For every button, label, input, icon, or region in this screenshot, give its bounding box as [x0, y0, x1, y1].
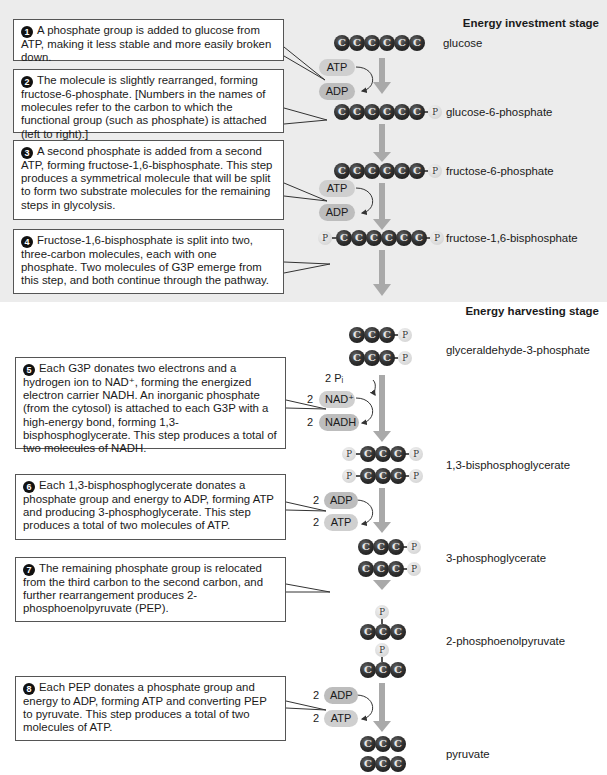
carbon-atom: C [409, 104, 425, 120]
carbon-atom: C [375, 468, 391, 484]
carbon-atom: C [349, 35, 365, 51]
carbon-atom: C [375, 446, 391, 462]
carbon-atom: C [366, 230, 382, 246]
carbon-atom: C [379, 35, 395, 51]
pep-phosphate-1: P [375, 605, 389, 624]
nadh-output-pill: NADH [319, 414, 359, 431]
carbon-atom: C [388, 539, 404, 555]
bisphosphoglycerate-label: 1,3-bisphosphoglycerate [446, 459, 570, 471]
atp-coefficient: 2 [313, 516, 319, 528]
phosphate-group: P [375, 605, 389, 619]
carbon-atom: C [349, 104, 365, 120]
pep-molecule-1: C C C [360, 624, 405, 640]
carbon-atom: C [360, 624, 376, 640]
step-5-text: Each G3P donates two electrons and a hyd… [23, 362, 277, 454]
carbon-atom: C [351, 230, 367, 246]
carbon-atom: C [390, 624, 406, 640]
carbon-atom: C [364, 104, 380, 120]
nad-input-pill: NAD⁺ [319, 391, 355, 408]
nadh-coefficient: 2 [307, 416, 313, 428]
carbon-atom: C [409, 163, 425, 179]
pep-phosphate-2: P [375, 643, 389, 662]
phosphate-group: P [398, 351, 412, 365]
phosphate-group: P [430, 231, 444, 245]
phosphate-group: P [409, 469, 423, 483]
carbon-atom: C [360, 736, 376, 752]
glucose-label: glucose [443, 37, 482, 49]
carbon-atom: C [360, 662, 376, 678]
step-number-badge: 3 [21, 147, 33, 159]
carbon-atom: C [358, 561, 374, 577]
step-number-badge: 6 [23, 481, 35, 493]
step-1-box: 1A phosphate group is added to glucose f… [13, 19, 284, 61]
carbon-atom: C [375, 756, 391, 772]
adp-output-pill: ADP [319, 204, 355, 221]
carbon-atom: C [394, 163, 410, 179]
step-3-box: 3A second phosphate is added from a seco… [13, 140, 284, 220]
carbon-atom: C [394, 104, 410, 120]
step-8-box: 8Each PEP donates a phosphate group and … [15, 676, 286, 741]
atp-output-pill: ATP [324, 710, 358, 727]
fructose-1-6-bisphosphate-molecule: P C C C C C C P [318, 230, 444, 246]
carbon-atom: C [390, 756, 406, 772]
phosphoenolpyruvate-label: 2-phosphoenolpyruvate [446, 635, 565, 647]
phosphoglycerate-molecule-1: C C C P [358, 539, 421, 555]
phosphate-group: P [342, 469, 356, 483]
carbon-atom: C [375, 624, 391, 640]
glyceraldehyde-3-phosphate-label: glyceraldehyde-3-phosphate [446, 344, 590, 356]
bisphosphoglycerate-molecule-2: P C C C P [342, 468, 423, 484]
step-4-text: Fructose-1,6-bisphosphate is split into … [21, 234, 269, 286]
g3p-molecule-1: C C C P [349, 327, 412, 343]
pep-molecule-2: C C C [360, 662, 405, 678]
phosphate-group: P [407, 540, 421, 554]
step-number-badge: 1 [21, 26, 33, 38]
step-1-text: A phosphate group is added to glucose fr… [21, 24, 271, 63]
carbon-atom: C [349, 350, 365, 366]
carbon-atom: C [364, 327, 380, 343]
step-6-text: Each 1,3-bisphosphoglycerate donates a p… [23, 479, 274, 531]
step-2-box: 2The molecule is slightly rearranged, fo… [13, 69, 284, 133]
adp-input-pill: ADP [324, 492, 358, 509]
investment-stage-heading: Energy investment stage [463, 17, 599, 29]
fructose-1-6-bisphosphate-label: fructose-1,6-bisphosphate [446, 232, 578, 244]
phosphate-group: P [409, 447, 423, 461]
carbon-atom: C [411, 230, 427, 246]
atp-input-pill: ATP [319, 180, 355, 197]
carbon-atom: C [388, 561, 404, 577]
pyruvate-molecule-2: C C C [360, 756, 405, 772]
step-6-box: 6Each 1,3-bisphosphoglycerate donates a … [15, 474, 286, 540]
carbon-atom: C [381, 230, 397, 246]
carbon-atom: C [390, 468, 406, 484]
carbon-atom: C [379, 327, 395, 343]
phosphate-group: P [407, 562, 421, 576]
carbon-atom: C [349, 163, 365, 179]
g3p-molecule-2: C C C P [349, 350, 412, 366]
pyruvate-molecule-1: C C C [360, 736, 405, 752]
phosphate-group: P [375, 643, 389, 657]
fructose-6-phosphate-molecule: C C C C C C P [334, 163, 442, 179]
atp-coefficient: 2 [313, 712, 319, 724]
carbon-atom: C [334, 163, 350, 179]
carbon-atom: C [373, 561, 389, 577]
phosphate-group: P [428, 164, 442, 178]
adp-coefficient: 2 [313, 494, 319, 506]
adp-coefficient: 2 [313, 689, 319, 701]
adp-input-pill: ADP [324, 687, 358, 704]
carbon-atom: C [390, 662, 406, 678]
3-phosphoglycerate-label: 3-phosphoglycerate [446, 552, 546, 564]
pyruvate-label: pyruvate [446, 748, 490, 760]
carbon-atom: C [358, 539, 374, 555]
glucose-6-phosphate-label: glucose-6-phosphate [446, 106, 552, 118]
step-number-badge: 2 [21, 76, 33, 88]
phosphate-group: P [318, 231, 332, 245]
step-7-box: 7The remaining phosphate group is reloca… [15, 557, 286, 622]
harvesting-stage-heading: Energy harvesting stage [465, 305, 599, 317]
atp-output-pill: ATP [324, 514, 358, 531]
carbon-atom: C [360, 468, 376, 484]
bisphosphoglycerate-molecule-1: P C C C P [342, 446, 423, 462]
step-8-text: Each PEP donates a phosphate group and e… [23, 681, 267, 733]
carbon-atom: C [375, 662, 391, 678]
phosphate-group: P [398, 328, 412, 342]
carbon-atom: C [360, 446, 376, 462]
nad-coefficient: 2 [307, 393, 313, 405]
